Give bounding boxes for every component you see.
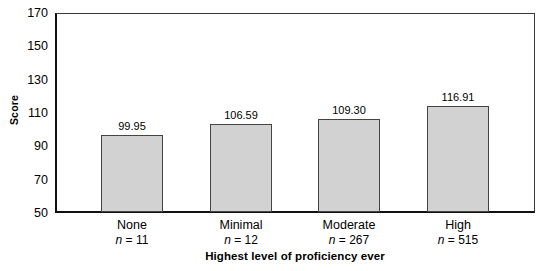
bar-chart-figure: Score 170 150 130 110 90 70 50 99.95 106… bbox=[0, 0, 548, 271]
n-symbol-minimal: n bbox=[224, 233, 231, 247]
bar-value-moderate: 109.30 bbox=[286, 105, 412, 116]
bar-high bbox=[427, 106, 489, 211]
y-tick-label-50: 50 bbox=[14, 207, 48, 219]
y-tick-label-50-wrap: 50 bbox=[14, 207, 48, 219]
x-axis-title: Highest level of proficiency ever bbox=[55, 250, 535, 262]
y-tick-label-90: 90 bbox=[14, 140, 48, 152]
x-category-n-moderate: n = 267 bbox=[286, 233, 412, 248]
n-symbol-moderate: n bbox=[329, 233, 336, 247]
n-value-minimal: = 12 bbox=[234, 233, 258, 247]
x-category-none: None n = 11 bbox=[69, 218, 195, 248]
x-category-high: High n = 515 bbox=[395, 218, 521, 248]
x-category-label-high: High bbox=[395, 218, 521, 233]
y-tick-label-130-wrap: 130 bbox=[14, 74, 48, 86]
y-tick-label-130: 130 bbox=[14, 74, 48, 86]
y-tick-label-150: 150 bbox=[14, 40, 48, 52]
x-category-n-none: n = 11 bbox=[69, 233, 195, 248]
n-value-high: = 515 bbox=[448, 233, 478, 247]
y-tick-label-70-wrap: 70 bbox=[14, 174, 48, 186]
y-tick-label-170: 170 bbox=[14, 7, 48, 19]
bar-value-high: 116.91 bbox=[395, 92, 521, 103]
bar-value-none: 99.95 bbox=[69, 121, 195, 132]
y-tick-label-70: 70 bbox=[14, 174, 48, 186]
n-value-moderate: = 267 bbox=[339, 233, 369, 247]
n-value-none: = 11 bbox=[126, 233, 149, 247]
y-tick-label-90-wrap: 90 bbox=[14, 140, 48, 152]
x-category-moderate: Moderate n = 267 bbox=[286, 218, 412, 248]
x-category-label-none: None bbox=[69, 218, 195, 233]
bar-moderate bbox=[318, 119, 380, 212]
y-tick-label-110: 110 bbox=[14, 107, 48, 119]
bar-none bbox=[101, 135, 163, 212]
y-tick-label-150-wrap: 150 bbox=[14, 40, 48, 52]
x-category-label-moderate: Moderate bbox=[286, 218, 412, 233]
n-symbol-none: n bbox=[116, 233, 123, 247]
y-tick-label-110-wrap: 110 bbox=[14, 107, 48, 119]
y-tick-label-170-wrap: 170 bbox=[14, 7, 48, 19]
bar-minimal bbox=[210, 124, 272, 212]
n-symbol-high: n bbox=[438, 233, 445, 247]
x-category-n-high: n = 515 bbox=[395, 233, 521, 248]
